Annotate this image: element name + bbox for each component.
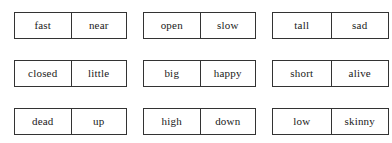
word-cell-right[interactable]: slow (200, 13, 256, 38)
word-pair-box[interactable]: low skinny (272, 108, 389, 135)
word-cell-left[interactable]: tall (273, 13, 331, 38)
word-pair-box[interactable]: open slow (143, 12, 256, 39)
word-cell-left[interactable]: closed (15, 61, 71, 86)
word-cell-right[interactable]: down (200, 109, 256, 134)
word-pair-box[interactable]: tall sad (272, 12, 389, 39)
word-cell-right[interactable]: skinny (331, 109, 389, 134)
word-cell-right[interactable]: near (71, 13, 127, 38)
word-cell-right[interactable]: sad (331, 13, 389, 38)
word-pair-box[interactable]: closed little (14, 60, 127, 87)
word-pair-box[interactable]: big happy (143, 60, 256, 87)
word-pair-box[interactable]: dead up (14, 108, 127, 135)
word-cell-left[interactable]: dead (15, 109, 71, 134)
word-cell-left[interactable]: fast (15, 13, 71, 38)
word-cell-right[interactable]: alive (331, 61, 389, 86)
word-cell-left[interactable]: short (273, 61, 331, 86)
word-cell-left[interactable]: open (144, 13, 200, 38)
word-cell-right[interactable]: little (71, 61, 127, 86)
word-cell-right[interactable]: up (71, 109, 127, 134)
word-pair-box[interactable]: fast near (14, 12, 127, 39)
word-cell-left[interactable]: high (144, 109, 200, 134)
word-cell-left[interactable]: low (273, 109, 331, 134)
word-pair-box[interactable]: high down (143, 108, 256, 135)
word-pair-worksheet: fast near open slow tall sad closed litt… (0, 0, 392, 143)
word-cell-right[interactable]: happy (200, 61, 256, 86)
word-cell-left[interactable]: big (144, 61, 200, 86)
word-pair-box[interactable]: short alive (272, 60, 389, 87)
word-pair-grid: fast near open slow tall sad closed litt… (14, 12, 380, 135)
